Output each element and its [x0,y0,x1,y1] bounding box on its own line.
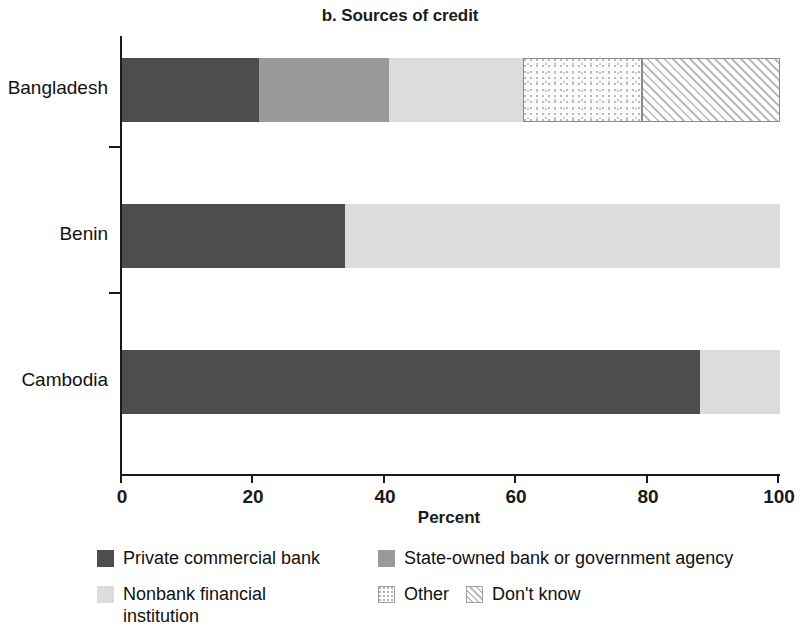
legend-item-nonbank-financial-institution[interactable]: Nonbank financial institution [97,583,298,627]
state-owned-bank-swatch [378,550,395,567]
x-axis-tick-label: 100 [749,486,800,508]
x-axis-tick [646,474,648,483]
x-axis-tick-label: 0 [92,486,152,508]
bar-segment-nonbank-financial-institution [345,204,780,268]
legend-label: Nonbank financial institution [123,583,298,627]
legend-item-private-commercial-bank[interactable]: Private commercial bank [97,547,320,569]
x-axis-tick-label: 20 [223,486,283,508]
bar-segment-nonbank-financial-institution [700,350,780,414]
y-axis-tick [109,146,120,148]
legend-label: Private commercial bank [123,547,320,569]
bar-row [122,58,780,122]
x-axis-title: Percent [120,508,778,528]
x-axis-tick-label: 60 [486,486,546,508]
bar-segment-nonbank-financial-institution [389,58,523,122]
chart-figure: b. Sources of credit 0 20 40 60 80 100 B… [0,0,800,636]
x-axis-tick [514,474,516,483]
dont-know-swatch [466,586,483,603]
x-axis-tick [120,474,122,483]
y-axis-label-benin: Benin [0,223,108,245]
bar-segment-dont-know [642,58,780,122]
x-axis-tick [383,474,385,483]
y-axis-label-cambodia: Cambodia [0,369,108,391]
x-axis-tick [777,474,779,483]
x-axis-tick [251,474,253,483]
legend-item-dont-know[interactable]: Don't know [466,583,580,605]
bar-segment-state-owned-bank [259,58,389,122]
bar-segment-private-commercial-bank [122,58,259,122]
bar-row [122,350,780,414]
y-axis-tick [109,292,120,294]
bar-segment-private-commercial-bank [122,204,345,268]
other-swatch [378,586,395,603]
chart-title: b. Sources of credit [0,6,800,26]
legend-label: Don't know [492,583,580,605]
bar-segment-private-commercial-bank [122,350,700,414]
bar-segment-other [523,58,641,122]
legend-item-state-owned-bank[interactable]: State-owned bank or government agency [378,547,733,569]
nonbank-financial-institution-swatch [97,586,114,603]
legend-label: State-owned bank or government agency [404,547,733,569]
plot-area: 0 20 40 60 80 100 [120,36,778,474]
x-axis-tick-label: 80 [618,486,678,508]
y-axis-label-bangladesh: Bangladesh [0,77,108,99]
x-axis-tick-label: 40 [355,486,415,508]
legend-label: Other [404,583,449,605]
private-commercial-bank-swatch [97,550,114,567]
bar-row [122,204,780,268]
x-axis-line [120,474,780,476]
chart-legend: Private commercial bank State-owned bank… [0,543,800,636]
legend-item-other[interactable]: Other [378,583,449,605]
